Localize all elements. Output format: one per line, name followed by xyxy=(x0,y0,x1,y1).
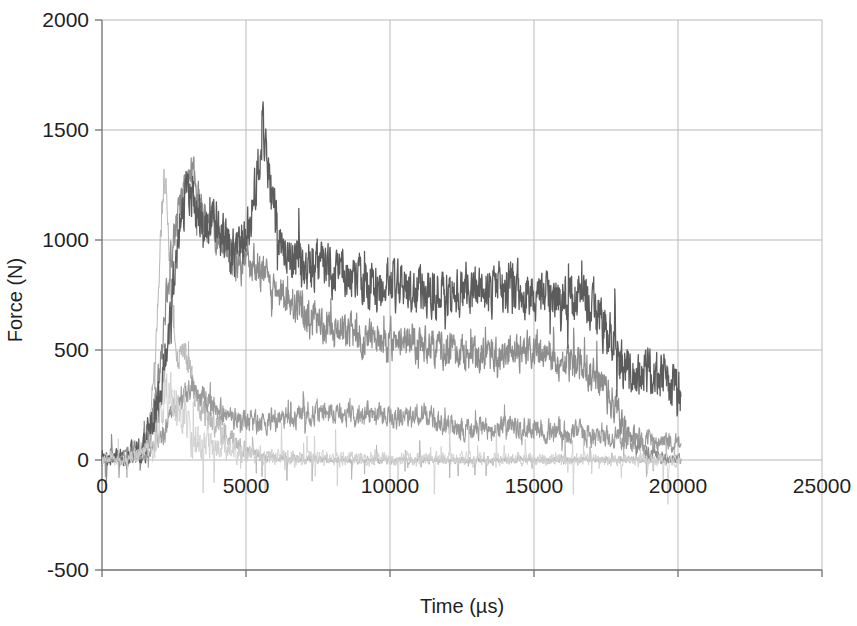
y-tick-label: 1000 xyxy=(42,228,89,251)
x-tick-label: 25000 xyxy=(793,474,851,497)
y-tick-label: 500 xyxy=(54,338,89,361)
force-time-line-chart: 0500010000150002000025000 -5000500100015… xyxy=(0,0,857,626)
y-tick-label: -500 xyxy=(47,558,89,581)
x-tick-label: 15000 xyxy=(505,474,563,497)
x-tick-label: 5000 xyxy=(223,474,270,497)
y-tick-label: 1500 xyxy=(42,118,89,141)
y-tick-label: 0 xyxy=(77,448,89,471)
x-tick-label: 20000 xyxy=(649,474,707,497)
x-axis-title: Time (µs) xyxy=(420,595,504,617)
y-axis-title: Force (N) xyxy=(4,258,26,342)
x-tick-label: 10000 xyxy=(361,474,419,497)
chart-figure: 0500010000150002000025000 -5000500100015… xyxy=(0,0,857,626)
chart-background xyxy=(0,0,857,626)
x-tick-label: 0 xyxy=(96,474,108,497)
y-tick-label: 2000 xyxy=(42,8,89,31)
